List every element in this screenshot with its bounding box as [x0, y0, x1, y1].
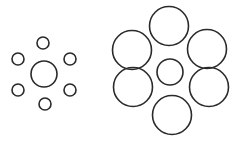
- left-surrounding-circle: [12, 53, 24, 65]
- left-surrounding-circle: [12, 84, 24, 96]
- left-center-circle: [31, 61, 57, 87]
- right-surrounding-circle: [153, 96, 192, 135]
- left-surrounding-circle: [39, 98, 51, 110]
- right-surrounding-circle: [188, 30, 227, 69]
- left-surrounding-circle: [64, 84, 76, 96]
- right-surrounding-circle: [190, 68, 229, 107]
- ebbinghaus-illusion-figure: [0, 0, 239, 148]
- right-surrounding-circle: [114, 68, 153, 107]
- right-surrounding-circle: [150, 7, 189, 46]
- right-center-circle: [157, 59, 183, 85]
- right-circle-group: [113, 7, 229, 135]
- left-surrounding-circle: [64, 53, 76, 65]
- left-surrounding-circle: [37, 37, 49, 49]
- right-surrounding-circle: [113, 31, 152, 70]
- left-circle-group: [12, 37, 76, 110]
